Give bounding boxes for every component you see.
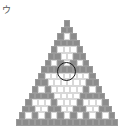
brick [86,66,92,73]
brick [70,33,76,40]
brick [109,112,115,119]
brick [89,73,95,80]
brick [80,53,86,60]
highlight-circle [57,62,76,81]
brick [73,40,79,47]
brick [96,86,102,93]
brick [112,119,118,126]
brick [77,46,83,53]
brick [102,99,108,106]
brick [67,27,73,34]
brick [64,20,70,27]
brick [83,60,89,67]
brick [93,79,99,86]
brick [99,93,105,100]
brick [105,106,111,113]
